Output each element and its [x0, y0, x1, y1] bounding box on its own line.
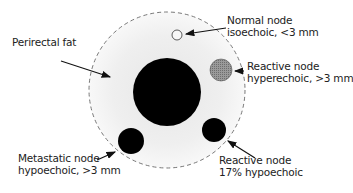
label-line: Normal node [227, 15, 319, 27]
label-line: Reactive node [247, 61, 353, 73]
rectum-center [133, 58, 201, 126]
normal-node [172, 30, 182, 40]
label-reactive-hyperechoic: Reactive node hyperechoic, >3 mm [247, 61, 353, 84]
label-metastatic-node: Metastatic node hypoechoic, >3 mm [18, 153, 121, 176]
label-line: 17% hypoechoic [219, 167, 303, 179]
reactive-hyperechoic-node [210, 59, 232, 81]
label-normal-node: Normal node isoechoic, <3 mm [227, 15, 319, 38]
label-perirectal-fat: Perirectal fat [12, 37, 76, 49]
label-line: Metastatic node [18, 153, 121, 165]
metastatic-node [118, 128, 144, 154]
label-reactive-hypoechoic: Reactive node 17% hypoechoic [219, 155, 303, 178]
reactive-hypoechoic-node [202, 118, 226, 142]
label-line: hyperechoic, >3 mm [247, 73, 353, 85]
label-line: hypoechoic, >3 mm [18, 165, 121, 177]
label-line: Reactive node [219, 155, 303, 167]
label-line: Perirectal fat [12, 37, 76, 49]
label-line: isoechoic, <3 mm [227, 27, 319, 39]
